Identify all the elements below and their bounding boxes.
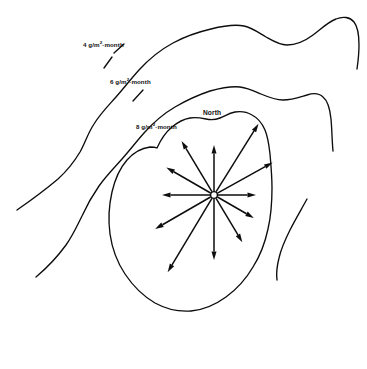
ray-s-arrowhead: [212, 252, 217, 261]
leader-6: [104, 57, 112, 68]
contour-map-figure: 4 g/m2·month 6 g/m2·month 8 g/m2·month N…: [0, 0, 367, 369]
contour-label-6-unit: g/m: [114, 78, 127, 85]
leader-8: [133, 90, 143, 101]
contour-label-4-unit: g/m: [87, 41, 100, 48]
ray-sse-shaft: [216, 198, 238, 234]
ray-ene-shaft: [218, 167, 266, 193]
ray-ese-shaft: [217, 197, 246, 214]
contour-label-4: 4 g/m2·month: [83, 42, 124, 48]
contour-4: [17, 17, 359, 210]
north-label: North: [203, 110, 221, 117]
source-point-marker: [211, 192, 218, 199]
ray-wnw-shaft: [174, 172, 211, 193]
ray-wnw-arrowhead: [166, 168, 175, 174]
contour-label-8-unit: g/m: [140, 123, 153, 130]
ray-ese-arrowhead: [245, 212, 254, 218]
ray-n-arrowhead: [212, 145, 217, 154]
ray-wsw-shaft: [162, 197, 210, 225]
contour-label-6-suffix: ·month: [129, 78, 151, 85]
ray-nnw-arrowhead: [182, 141, 189, 150]
right-edge-line: [277, 199, 307, 280]
ray-w-arrowhead: [162, 193, 171, 198]
contour-label-6: 6 g/m2·month: [110, 79, 151, 85]
contour-lines-group: [17, 17, 359, 311]
contour-label-8: 8 g/m2·month: [136, 124, 177, 130]
ray-wsw-arrowhead: [155, 223, 164, 229]
ray-e-arrowhead: [248, 193, 257, 198]
map-canvas: [0, 0, 367, 369]
ray-nne-arrowhead: [252, 124, 259, 133]
ray-sse-arrowhead: [236, 234, 243, 243]
ray-nnw-shaft: [186, 148, 212, 191]
contour-6: [36, 87, 333, 277]
contour-label-4-suffix: ·month: [102, 41, 124, 48]
contour-label-8-suffix: ·month: [155, 123, 177, 130]
ray-ssw-arrowhead: [168, 264, 175, 273]
